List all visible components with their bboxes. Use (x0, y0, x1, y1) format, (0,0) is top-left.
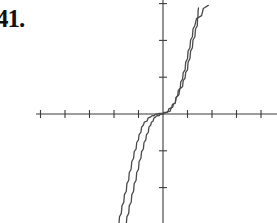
plot-area (0, 0, 277, 223)
